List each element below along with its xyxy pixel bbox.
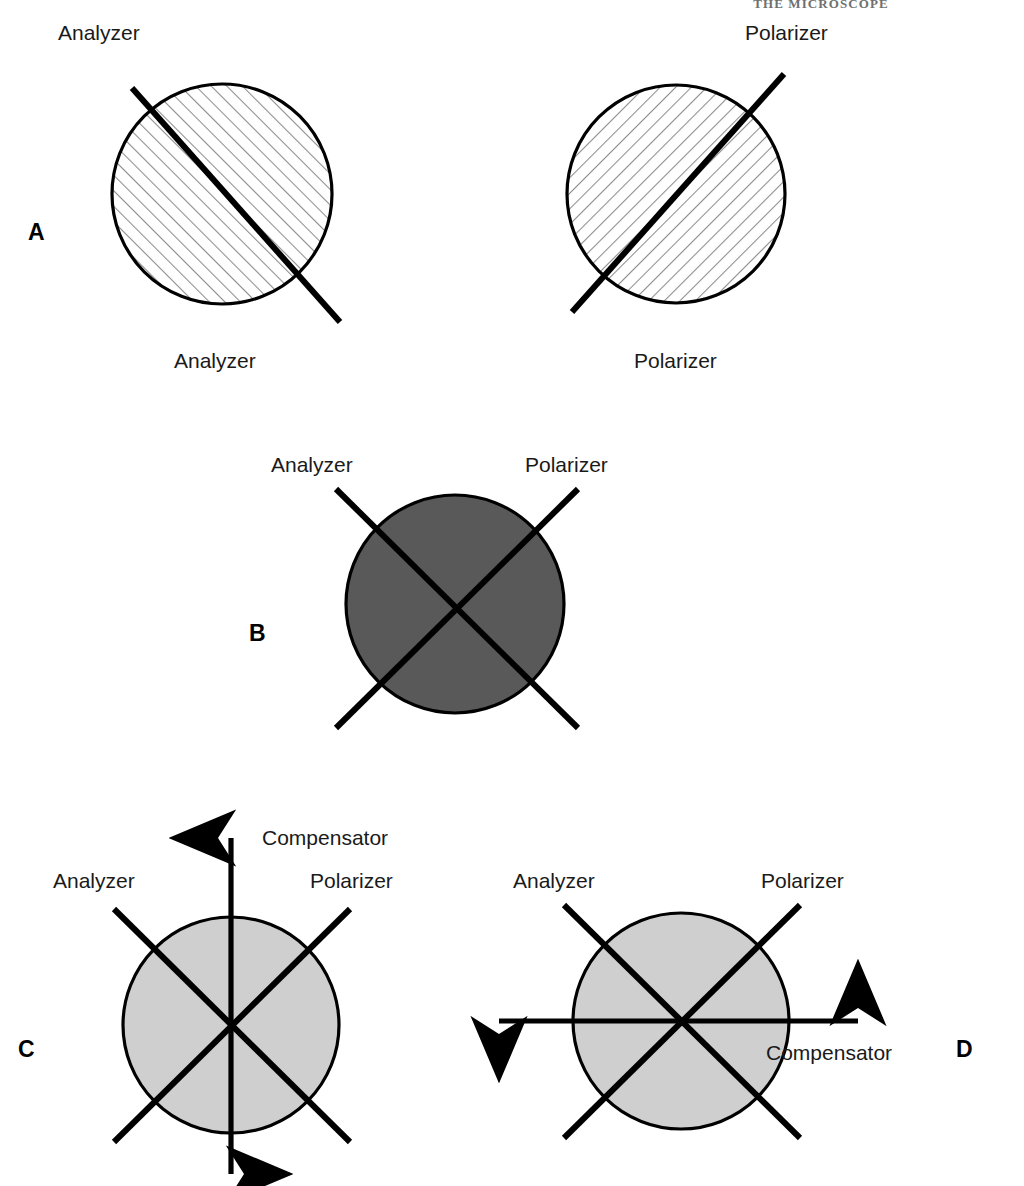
- analyzer-label-top: Analyzer: [58, 21, 140, 44]
- polarization-diagram: THE MICROSCOPE Analyzer Analyzer Polariz…: [0, 0, 1024, 1186]
- panel-letter-b: B: [249, 620, 266, 646]
- polarizer-label: Polarizer: [525, 453, 608, 476]
- panel-a-polarizer-disc: Polarizer Polarizer: [567, 21, 828, 372]
- panel-a: Analyzer Analyzer Polarizer Polarizer A: [28, 21, 828, 372]
- panel-letter-d: D: [956, 1036, 973, 1062]
- analyzer-label: Analyzer: [513, 869, 595, 892]
- compensator-label: Compensator: [262, 826, 388, 849]
- polarizer-label: Polarizer: [310, 869, 393, 892]
- analyzer-label: Analyzer: [53, 869, 135, 892]
- analyzer-disc-circle: [112, 84, 332, 304]
- polarizer-label-top: Polarizer: [745, 21, 828, 44]
- panel-letter-c: C: [18, 1036, 35, 1062]
- polarizer-label-bottom: Polarizer: [634, 349, 717, 372]
- panel-d: Analyzer Polarizer Compensator D: [499, 869, 973, 1138]
- panel-c: Analyzer Polarizer Compensator C: [18, 826, 393, 1174]
- figure-container: THE MICROSCOPE Analyzer Analyzer Polariz…: [0, 0, 1024, 1186]
- compensator-label: Compensator: [766, 1041, 892, 1064]
- panel-b: Analyzer Polarizer B: [249, 453, 608, 728]
- analyzer-label-bottom: Analyzer: [174, 349, 256, 372]
- panel-a-analyzer-disc: Analyzer Analyzer: [58, 21, 340, 372]
- running-head: THE MICROSCOPE: [753, 0, 889, 11]
- polarizer-label: Polarizer: [761, 869, 844, 892]
- analyzer-label: Analyzer: [271, 453, 353, 476]
- panel-letter-a: A: [28, 219, 45, 245]
